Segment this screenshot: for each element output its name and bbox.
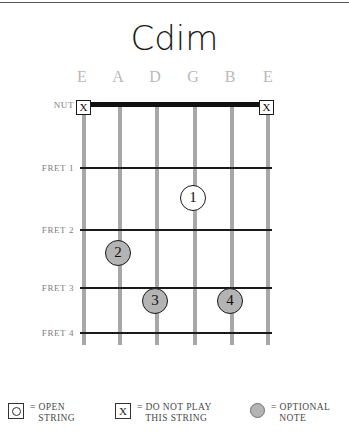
fret-label-nut: NUT: [12, 100, 74, 110]
legend-item-do-not-play: X = DO NOT PLAY THIS STRING: [115, 402, 212, 424]
string-label-4: G: [181, 68, 205, 86]
string-line-4: [193, 105, 197, 345]
legend-label-do-not-play: = DO NOT PLAY THIS STRING: [137, 402, 212, 424]
open-string-icon: [8, 403, 24, 419]
optional-note-icon: [250, 403, 265, 418]
string-label-6: E: [256, 68, 280, 86]
finger-marker-1[interactable]: 1: [180, 185, 206, 211]
fret-label-fret-1: FRET 1: [12, 163, 74, 173]
string-label-3: D: [143, 68, 167, 86]
do-not-play-icon: X: [115, 403, 131, 419]
string-label-1: E: [70, 68, 94, 86]
string-line-6: [266, 105, 270, 345]
fret-label-fret-3: FRET 3: [12, 283, 74, 293]
chord-diagram-page: Cdim E A D G B E NUT FRET 1 FRET 2 FRET …: [0, 0, 349, 443]
fret-line-4: [80, 332, 272, 334]
string-label-5: B: [218, 68, 242, 86]
fret-line-1: [80, 167, 272, 169]
fret-label-fret-4: FRET 4: [12, 328, 74, 338]
string-line-1: [82, 105, 86, 345]
page-title: Cdim: [0, 18, 349, 58]
fret-line-3: [80, 287, 272, 289]
finger-marker-3[interactable]: 3: [142, 288, 168, 314]
legend-label-optional-note: = OPTIONAL NOTE: [271, 402, 330, 424]
nut-bar: [80, 102, 272, 107]
fret-label-fret-2: FRET 2: [12, 225, 74, 235]
finger-marker-2[interactable]: 2: [105, 240, 131, 266]
top-divider: [0, 2, 349, 3]
legend-item-open-string: = OPEN STRING: [8, 402, 75, 424]
legend-label-open-string: = OPEN STRING: [30, 402, 75, 424]
legend-item-optional-note: = OPTIONAL NOTE: [250, 402, 330, 424]
string-line-2: [118, 105, 122, 345]
legend: = OPEN STRING X = DO NOT PLAY THIS STRIN…: [0, 398, 349, 438]
finger-marker-4[interactable]: 4: [217, 288, 243, 314]
mute-marker-string-6[interactable]: X: [259, 100, 274, 115]
mute-marker-string-1[interactable]: X: [76, 100, 91, 115]
string-label-2: A: [106, 68, 130, 86]
fret-line-2: [80, 229, 272, 231]
